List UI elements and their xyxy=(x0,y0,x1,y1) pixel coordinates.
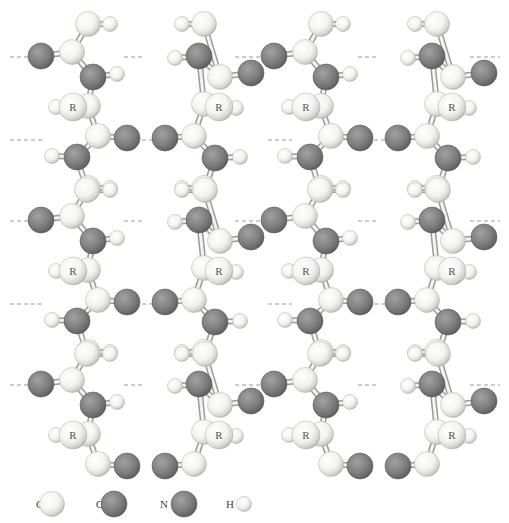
r-group-label: R xyxy=(448,429,456,441)
hydrogen-atom xyxy=(45,149,60,164)
carbon-atom xyxy=(319,452,344,477)
nitrogen-atom xyxy=(297,308,323,334)
oxygen-atom xyxy=(28,43,54,69)
legend: CONH xyxy=(36,491,252,517)
hydrogen-atom xyxy=(110,67,125,82)
carbon-atom xyxy=(293,204,318,229)
legend-swatch-o xyxy=(101,491,127,517)
carbon-atom xyxy=(86,452,111,477)
carbon-atom xyxy=(308,342,333,367)
oxygen-atom xyxy=(261,207,287,233)
legend-swatch-c xyxy=(40,492,65,517)
r-group-label: R xyxy=(215,265,223,277)
carbon-atom xyxy=(415,288,440,313)
oxygen-atom xyxy=(385,453,411,479)
legend-label-h: H xyxy=(226,498,234,510)
carbon-atom xyxy=(208,229,233,254)
carbon-atom xyxy=(60,40,85,65)
oxygen-atom xyxy=(28,371,54,397)
oxygen-atom xyxy=(28,207,54,233)
hydrogen-atom xyxy=(336,17,351,32)
nitrogen-atom xyxy=(313,64,339,90)
r-group-label: R xyxy=(69,429,77,441)
oxygen-atom xyxy=(238,224,264,250)
legend-swatch-n xyxy=(171,491,197,517)
hydrogen-atom xyxy=(408,347,423,362)
nitrogen-atom xyxy=(419,43,445,69)
nitrogen-atom xyxy=(186,207,212,233)
hydrogen-atom xyxy=(110,395,125,410)
nitrogen-atom xyxy=(64,308,90,334)
carbon-atom xyxy=(293,40,318,65)
carbon-atom xyxy=(293,368,318,393)
carbon-atom xyxy=(441,229,466,254)
carbon-atom xyxy=(182,124,207,149)
carbon-atom xyxy=(415,452,440,477)
oxygen-atom xyxy=(347,125,373,151)
oxygen-atom xyxy=(152,125,178,151)
nitrogen-atom xyxy=(80,392,106,418)
oxygen-atom xyxy=(471,60,497,86)
r-group-label: R xyxy=(302,429,310,441)
carbon-atom xyxy=(75,342,100,367)
nitrogen-atom xyxy=(186,43,212,69)
carbon-atom xyxy=(319,288,344,313)
carbon-atom xyxy=(426,178,451,203)
nitrogen-atom xyxy=(80,228,106,254)
hydrogen-atom xyxy=(110,231,125,246)
hydrogen-atom xyxy=(278,149,293,164)
hydrogen-atom xyxy=(401,379,416,394)
r-group-label: R xyxy=(448,101,456,113)
r-group-label: R xyxy=(69,265,77,277)
hydrogen-atom xyxy=(343,231,358,246)
r-group-label: R xyxy=(215,429,223,441)
oxygen-atom xyxy=(152,453,178,479)
nitrogen-atom xyxy=(419,207,445,233)
hydrogen-atom xyxy=(175,17,190,32)
carbon-atom xyxy=(415,124,440,149)
carbon-atom xyxy=(208,65,233,90)
nitrogen-atom xyxy=(202,309,228,335)
carbon-atom xyxy=(208,393,233,418)
oxygen-atom xyxy=(114,453,140,479)
oxygen-atom xyxy=(238,60,264,86)
carbon-atom xyxy=(182,452,207,477)
hydrogen-atom xyxy=(168,51,183,66)
nitrogen-atom xyxy=(202,145,228,171)
carbon-atom xyxy=(76,12,101,37)
oxygen-atom xyxy=(114,289,140,315)
hydrogen-atom xyxy=(343,395,358,410)
carbon-atom xyxy=(441,393,466,418)
atoms: RRRRRRRRRRRR xyxy=(28,12,497,480)
carbon-atom xyxy=(86,288,111,313)
nitrogen-atom xyxy=(297,144,323,170)
oxygen-atom xyxy=(385,125,411,151)
carbon-atom xyxy=(441,65,466,90)
oxygen-atom xyxy=(114,125,140,151)
carbon-atom xyxy=(86,124,111,149)
hydrogen-atom xyxy=(336,183,351,198)
oxygen-atom xyxy=(238,388,264,414)
hydrogen-atom xyxy=(466,314,481,329)
hydrogen-atom xyxy=(45,313,60,328)
nitrogen-atom xyxy=(313,392,339,418)
oxygen-atom xyxy=(385,289,411,315)
hydrogen-atom xyxy=(168,215,183,230)
nitrogen-atom xyxy=(435,309,461,335)
nitrogen-atom xyxy=(313,228,339,254)
oxygen-atom xyxy=(347,453,373,479)
carbon-atom xyxy=(193,178,218,203)
nitrogen-atom xyxy=(435,145,461,171)
oxygen-atom xyxy=(471,388,497,414)
hydrogen-atom xyxy=(466,150,481,165)
hydrogen-atom xyxy=(278,313,293,328)
nitrogen-atom xyxy=(186,371,212,397)
carbon-atom xyxy=(308,178,333,203)
hydrogen-atom xyxy=(103,347,118,362)
carbon-atom xyxy=(182,288,207,313)
carbon-atom xyxy=(426,342,451,367)
nitrogen-atom xyxy=(80,64,106,90)
hydrogen-atom xyxy=(336,347,351,362)
oxygen-atom xyxy=(347,289,373,315)
carbon-atom xyxy=(425,12,450,37)
